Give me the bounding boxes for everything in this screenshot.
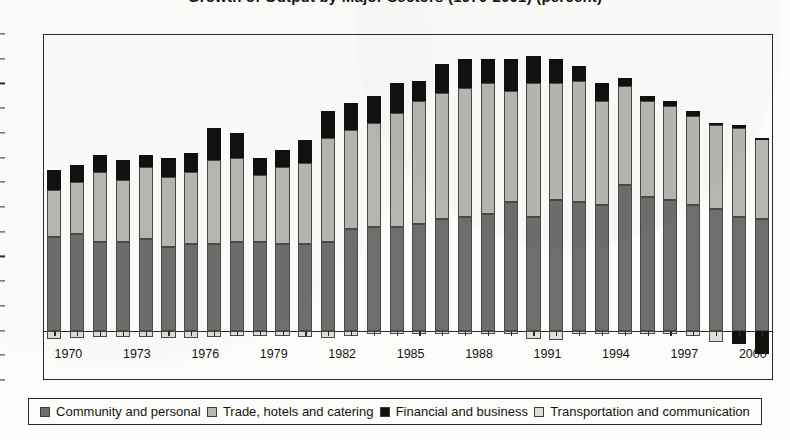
bar-segment[interactable]: [481, 59, 495, 84]
bar-segment[interactable]: [458, 88, 472, 217]
bar-segment[interactable]: [732, 125, 746, 127]
bar-segment[interactable]: [504, 91, 518, 202]
legend-item[interactable]: Transportation and communication: [534, 404, 750, 419]
bar-group[interactable]: [504, 34, 518, 380]
bar-group[interactable]: [161, 34, 175, 380]
bar-segment[interactable]: [663, 106, 677, 200]
bar-group[interactable]: [93, 34, 107, 380]
bar-segment[interactable]: [458, 217, 472, 331]
bar-group[interactable]: [344, 34, 358, 380]
bar-segment[interactable]: [93, 155, 107, 172]
bar-segment[interactable]: [663, 101, 677, 106]
bar-segment[interactable]: [321, 111, 335, 138]
bar-group[interactable]: [116, 34, 130, 380]
bar-segment[interactable]: [732, 128, 746, 217]
bar-segment[interactable]: [253, 242, 267, 331]
bar-segment[interactable]: [526, 83, 540, 216]
bar-segment[interactable]: [481, 83, 495, 214]
bar-segment[interactable]: [161, 177, 175, 246]
bar-segment[interactable]: [253, 158, 267, 175]
bar-group[interactable]: [572, 34, 586, 380]
bar-group[interactable]: [709, 34, 723, 380]
bar-segment[interactable]: [435, 64, 449, 94]
bar-segment[interactable]: [139, 239, 153, 330]
bar-group[interactable]: [458, 34, 472, 380]
bar-segment[interactable]: [116, 180, 130, 242]
bar-segment[interactable]: [367, 123, 381, 227]
bar-segment[interactable]: [230, 242, 244, 331]
bar-segment[interactable]: [47, 170, 61, 190]
bar-segment[interactable]: [47, 237, 61, 331]
bar-segment[interactable]: [504, 202, 518, 331]
bar-segment[interactable]: [595, 205, 609, 331]
bar-group[interactable]: [595, 34, 609, 380]
bar-segment[interactable]: [572, 66, 586, 81]
bar-segment[interactable]: [367, 96, 381, 123]
legend-item[interactable]: Trade, hotels and catering: [207, 404, 374, 419]
bar-segment[interactable]: [298, 140, 312, 162]
bar-group[interactable]: [481, 34, 495, 380]
bar-segment[interactable]: [161, 247, 175, 331]
bar-segment[interactable]: [230, 158, 244, 242]
bar-segment[interactable]: [640, 101, 654, 197]
bar-segment[interactable]: [344, 130, 358, 229]
bar-segment[interactable]: [275, 150, 289, 167]
bar-segment[interactable]: [572, 81, 586, 202]
bar-segment[interactable]: [549, 83, 563, 199]
bar-segment[interactable]: [412, 224, 426, 330]
bar-segment[interactable]: [93, 172, 107, 241]
legend-item[interactable]: Financial and business: [380, 404, 528, 419]
bar-group[interactable]: [367, 34, 381, 380]
bar-group[interactable]: [70, 34, 84, 380]
bar-segment[interactable]: [70, 165, 84, 182]
bar-segment[interactable]: [344, 103, 358, 130]
bar-segment[interactable]: [755, 138, 769, 140]
bar-segment[interactable]: [390, 227, 404, 331]
bar-group[interactable]: [47, 34, 61, 380]
bar-segment[interactable]: [139, 167, 153, 239]
bar-segment[interactable]: [595, 101, 609, 205]
bar-segment[interactable]: [70, 234, 84, 330]
bar-group[interactable]: [253, 34, 267, 380]
legend-item[interactable]: Community and personal: [40, 404, 201, 419]
bar-segment[interactable]: [755, 219, 769, 330]
bar-segment[interactable]: [298, 163, 312, 245]
bar-group[interactable]: [412, 34, 426, 380]
bar-segment[interactable]: [504, 59, 518, 91]
bar-group[interactable]: [275, 34, 289, 380]
bar-segment[interactable]: [344, 229, 358, 330]
bar-segment[interactable]: [275, 167, 289, 244]
bar-segment[interactable]: [435, 93, 449, 219]
bar-segment[interactable]: [709, 209, 723, 330]
bar-segment[interactable]: [686, 116, 700, 205]
bar-segment[interactable]: [139, 155, 153, 167]
bar-segment[interactable]: [709, 125, 723, 209]
bar-segment[interactable]: [412, 101, 426, 225]
bar-group[interactable]: [526, 34, 540, 380]
bar-group[interactable]: [755, 34, 769, 380]
bar-segment[interactable]: [686, 111, 700, 116]
bar-segment[interactable]: [298, 244, 312, 331]
bar-segment[interactable]: [47, 190, 61, 237]
bar-segment[interactable]: [70, 182, 84, 234]
bar-group[interactable]: [321, 34, 335, 380]
bar-group[interactable]: [732, 34, 746, 380]
bar-segment[interactable]: [184, 244, 198, 331]
bar-segment[interactable]: [663, 200, 677, 331]
bar-group[interactable]: [686, 34, 700, 380]
bar-segment[interactable]: [458, 59, 472, 89]
bar-segment[interactable]: [481, 214, 495, 330]
bar-group[interactable]: [207, 34, 221, 380]
bar-segment[interactable]: [116, 160, 130, 180]
bar-group[interactable]: [640, 34, 654, 380]
bar-segment[interactable]: [207, 128, 221, 160]
bar-segment[interactable]: [618, 185, 632, 331]
bar-segment[interactable]: [755, 138, 769, 220]
bar-group[interactable]: [230, 34, 244, 380]
bar-group[interactable]: [435, 34, 449, 380]
bar-segment[interactable]: [732, 217, 746, 331]
bar-segment[interactable]: [321, 242, 335, 331]
bar-segment[interactable]: [549, 200, 563, 331]
bar-segment[interactable]: [686, 205, 700, 331]
bar-segment[interactable]: [367, 227, 381, 331]
